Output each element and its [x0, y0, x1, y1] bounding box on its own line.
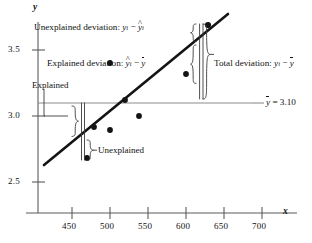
explained-deviation-label: Explained deviation:	[47, 58, 123, 68]
brace-explained-left	[72, 106, 78, 136]
data-point	[107, 127, 113, 133]
unexplained-formula-yhat-group: ^y	[138, 22, 142, 32]
brace-explained-right	[191, 45, 196, 83]
data-point	[122, 97, 128, 103]
annotation-unexplained-deviation: Unexplained deviation: yi − ^yi	[34, 22, 144, 32]
regression-line	[44, 14, 228, 165]
bar-accent	[142, 57, 145, 58]
explained-formula-minus: −	[134, 58, 139, 68]
axis-group	[26, 22, 297, 213]
annotation-explained-deviation: Explained deviation: ^yi − y	[47, 58, 145, 68]
mean-line-label: y = 3.10	[266, 97, 296, 107]
mean-symbol-group: y	[266, 97, 270, 107]
y-tick-label-2.5: 2.5	[8, 176, 20, 186]
brace-unexplained-right	[191, 24, 196, 42]
brace-total-right	[203, 24, 214, 99]
x-axis-label: x	[283, 206, 288, 216]
hat-accent: ^	[138, 19, 142, 27]
explained-formula-ybar: y	[141, 58, 145, 68]
bar-accent	[290, 57, 293, 58]
data-point	[91, 124, 97, 130]
x-tick-label-550: 550	[138, 221, 152, 231]
x-tick-label-500: 500	[100, 221, 114, 231]
bar-accent	[266, 96, 269, 97]
unexplained-formula-sub1: i	[126, 24, 128, 31]
y-axis-label: y	[33, 2, 37, 12]
total-formula-sub1: i	[278, 60, 280, 67]
total-deviation-label: Total deviation:	[214, 58, 272, 68]
total-formula-minus: −	[282, 58, 287, 68]
x-tick-label-650: 650	[214, 221, 228, 231]
regression-deviation-figure: 3.5 3.0 2.5 450 500 550 600 650 700 y x …	[0, 0, 312, 243]
y-tick-label-3.0: 3.0	[8, 110, 20, 120]
mean-symbol: y	[266, 97, 270, 107]
total-formula-ybar: y	[290, 58, 294, 68]
unexplained-formula-sub2: i	[142, 24, 144, 31]
unexplained-deviation-label: Unexplained deviation:	[34, 22, 120, 32]
data-point	[136, 113, 142, 119]
x-tick-label-450: 450	[62, 221, 76, 231]
unexplained-formula-minus: −	[131, 22, 136, 32]
x-tick-label-600: 600	[176, 221, 190, 231]
y-tick-label-3.5: 3.5	[8, 44, 20, 54]
total-formula-ybar-group: y	[290, 58, 294, 68]
hat-accent: ^	[126, 55, 130, 63]
chart-canvas	[0, 0, 312, 243]
annotation-explained-small: Explained	[32, 80, 69, 90]
mean-value: = 3.10	[272, 97, 296, 107]
data-point	[183, 71, 189, 77]
x-tick-label-700: 700	[252, 221, 266, 231]
annotation-total-deviation: Total deviation: yi − y	[214, 58, 294, 68]
annotation-unexplained-small: Unexplained	[98, 145, 144, 155]
explained-formula-yhat-group: ^y	[126, 58, 130, 68]
explained-formula-ybar-group: y	[141, 58, 145, 68]
